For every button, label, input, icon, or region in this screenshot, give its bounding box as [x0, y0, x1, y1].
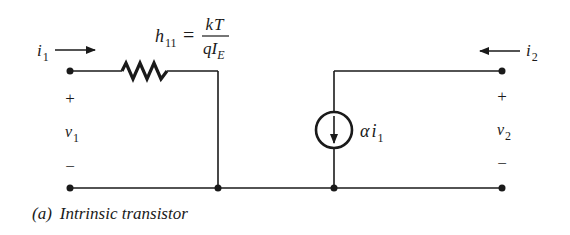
- resistor-formula: h11 = kT qIE: [155, 15, 229, 62]
- resistor-name: h11: [155, 26, 177, 50]
- port2-voltage-label: v2: [497, 121, 511, 143]
- port1-current-label: i1: [37, 41, 49, 64]
- figure-caption: (a)Intrinsic transistor: [32, 204, 188, 223]
- port1-voltage-label: v1: [65, 123, 79, 145]
- formula-equals: =: [183, 24, 194, 46]
- port2-current-label: i2: [526, 41, 538, 64]
- port1-minus: −: [65, 157, 75, 176]
- port1-plus: +: [65, 89, 75, 108]
- terminal-port1-top: [67, 68, 74, 75]
- terminal-port1-bottom: [67, 185, 74, 192]
- current-source: [316, 112, 352, 148]
- current-source-label: αi1: [360, 121, 383, 145]
- junction-source-bottom: [331, 185, 338, 192]
- junction-h11-bottom: [215, 185, 222, 192]
- formula-denominator: qIE: [203, 39, 225, 62]
- caption-label: (a): [32, 204, 52, 223]
- caption-text: Intrinsic transistor: [59, 204, 188, 223]
- circuit-diagram: i1 + v1 − i2 + v2 − h11 = kT qIE αi1 (a)…: [0, 0, 570, 235]
- terminals: [67, 68, 506, 192]
- wires: [70, 71, 502, 188]
- terminal-port2-top: [499, 68, 506, 75]
- port2-minus: −: [497, 154, 507, 173]
- formula-numerator: kT: [206, 15, 226, 34]
- resistor-h11: [122, 63, 167, 79]
- port2-plus: +: [497, 87, 507, 106]
- terminal-port2-bottom: [499, 185, 506, 192]
